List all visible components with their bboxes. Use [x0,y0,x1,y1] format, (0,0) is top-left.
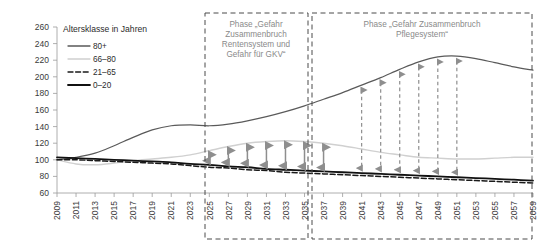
x-tick-label: 2027 [224,201,234,220]
x-tick-label: 2033 [281,201,291,220]
x-tick-label: 2047 [414,201,424,220]
x-tick-label: 2059 [528,201,538,220]
legend-label-2: 21–65 [93,68,116,77]
phase-2-label-line1: Phase „Gefahr Zusammenbruch [364,20,481,29]
x-tick-label: 2045 [395,201,405,220]
x-tick-label: 2043 [376,201,386,220]
x-axis: 2009201120132015201720192021202320252027… [52,193,538,220]
x-tick-label: 2049 [433,201,443,220]
y-tick-label: 160 [35,105,49,115]
x-tick-label: 2053 [471,201,481,220]
legend-label-0: 80+ [93,42,107,51]
phase-1-label-line4: Gefahr für GKV“ [226,50,285,59]
y-tick-label: 240 [35,39,49,49]
y-tick-label: 180 [35,88,49,98]
series-line-0-20 [57,157,533,180]
x-tick-label: 2023 [185,201,195,220]
x-tick-label: 2017 [128,201,138,220]
y-tick-label: 140 [35,122,49,132]
y-tick-label: 200 [35,72,49,82]
series-line-80- [57,56,533,160]
y-tick-label: 80 [40,171,50,181]
legend-label-1: 66–80 [93,55,116,64]
y-tick-label: 120 [35,138,49,148]
y-tick-label: 220 [35,55,49,65]
x-tick-label: 2021 [166,201,176,220]
x-tick-label: 2029 [243,201,253,220]
phase-1-label-line2: Zusammenbruch [225,30,287,39]
x-tick-label: 2031 [262,201,272,220]
y-axis: 6080100120140160180200220240260 [35,22,57,198]
x-tick-label: 2009 [52,201,62,220]
y-tick-label: 60 [40,188,50,198]
x-tick-label: 2019 [147,201,157,220]
chart-container: 6080100120140160180200220240260 20092011… [0,0,544,251]
x-tick-label: 2025 [205,201,215,220]
legend-items: 80+66–8021–650–20 [68,42,116,90]
x-tick-label: 2041 [357,201,367,220]
x-tick-label: 2057 [509,201,519,220]
phase-1-label-line1: Phase „Gefahr [229,20,283,29]
phase-1-label-line3: Rentensystem und [222,40,291,49]
x-tick-label: 2013 [90,201,100,220]
x-tick-label: 2011 [71,201,81,220]
series-line-21-65 [57,160,533,183]
x-tick-label: 2015 [109,201,119,220]
legend-label-3: 0–20 [93,81,112,90]
y-tick-group: 6080100120140160180200220240260 [35,22,57,198]
x-tick-label: 2055 [490,201,500,220]
line-chart: 6080100120140160180200220240260 20092011… [0,0,544,251]
x-tick-group: 2009201120132015201720192021202320252027… [52,193,538,220]
phase-1-annotation: Phase „Gefahr Zusammenbruch Rentensystem… [205,13,308,239]
x-tick-label: 2039 [338,201,348,220]
y-tick-label: 260 [35,22,49,32]
series-group [57,56,533,183]
x-tick-label: 2037 [319,201,329,220]
y-tick-label: 100 [35,155,49,165]
phase1-arrow-group [209,145,323,168]
legend-title: Altersklasse in Jahren [63,24,147,34]
x-tick-label: 2051 [452,201,462,220]
phase-2-label-line2: Pflegesystem“ [396,30,448,39]
legend: Altersklasse in Jahren 80+66–8021–650–20 [63,24,147,90]
